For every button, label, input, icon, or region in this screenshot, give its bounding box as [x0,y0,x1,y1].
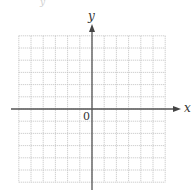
x-axis-label: x [184,102,191,114]
x-axis-arrow-icon [173,106,181,112]
y-axis-arrow-icon [89,24,95,32]
origin-label: 0 [83,111,90,122]
coordinate-plane [0,0,196,191]
axes [11,24,181,190]
y-axis-label: y [88,10,95,22]
